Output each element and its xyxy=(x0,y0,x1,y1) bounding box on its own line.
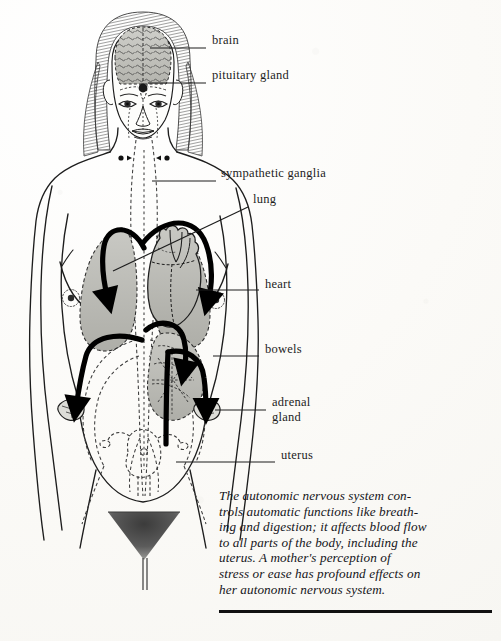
caption-line-6: stress or ease has profound effects on xyxy=(219,566,494,582)
left-lung xyxy=(80,228,137,351)
caption-line-5: uterus. A mother's perception of xyxy=(219,550,494,566)
caption-line-3: ing and digestion; it affects blood flow xyxy=(219,519,494,535)
label-bowels: bowels xyxy=(265,343,302,356)
head-illustration xyxy=(84,12,203,156)
caption-rule xyxy=(219,610,492,613)
caption-line-1: The autonomic nervous system con- xyxy=(219,488,494,504)
caption-line-7: her autonomic nervous system. xyxy=(219,582,494,598)
label-brain: brain xyxy=(212,34,239,47)
label-lung: lung xyxy=(253,193,276,206)
page-background: brain pituitary gland sympathetic gangli… xyxy=(0,0,501,641)
pituitary-gland-marker xyxy=(139,84,148,93)
label-sympathetic-ganglia: sympathetic ganglia xyxy=(221,167,326,180)
label-adrenal-gland-line2: gland xyxy=(272,411,301,424)
caption-line-4: to all parts of the body, including the xyxy=(219,535,494,551)
pelvic-stipple xyxy=(108,512,180,590)
label-pituitary-gland: pituitary gland xyxy=(212,69,289,82)
caption-block: The autonomic nervous system con- trols … xyxy=(219,488,494,597)
label-heart: heart xyxy=(265,278,291,291)
caption-line-2: trols automatic functions like breath- xyxy=(219,504,494,520)
label-uterus: uterus xyxy=(281,449,313,462)
label-adrenal-gland-line1: adrenal xyxy=(272,396,311,409)
